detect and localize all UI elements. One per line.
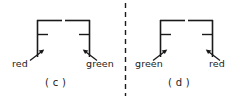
panel-d-green-label: green <box>135 59 163 69</box>
panel-d-graphics <box>153 20 220 61</box>
panel-c-graphics <box>30 20 97 61</box>
figure-root: red green green red ( c ) ( d ) <box>0 0 250 99</box>
diagram-canvas <box>0 0 250 99</box>
panel-c-red-label: red <box>12 59 28 69</box>
panel-c-caption: ( c ) <box>45 77 66 88</box>
panel-c-green-label: green <box>86 59 114 69</box>
panel-d-caption: ( d ) <box>168 77 190 88</box>
panel-d-red-label: red <box>209 59 225 69</box>
